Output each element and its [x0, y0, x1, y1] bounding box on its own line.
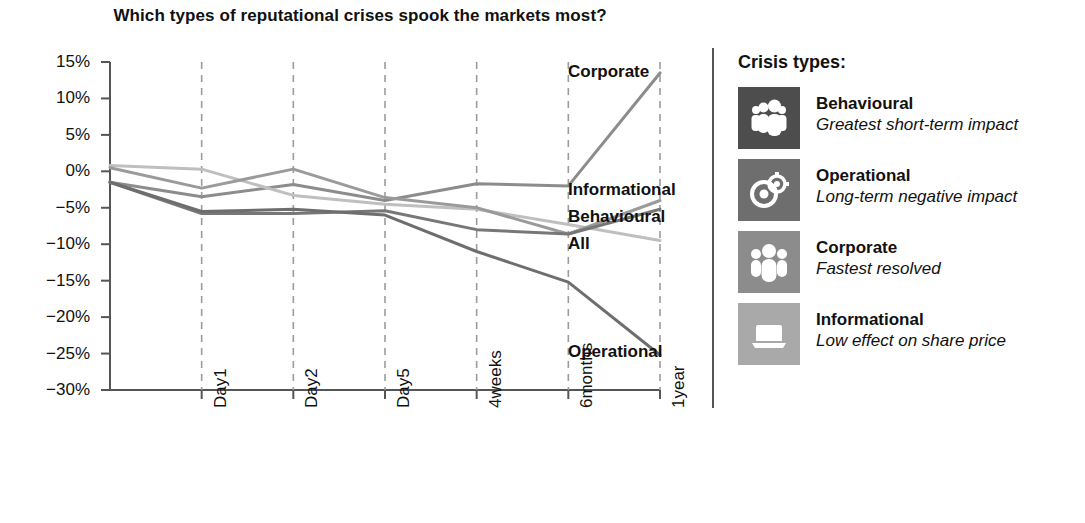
- x-axis-tick-label: Day1: [211, 368, 231, 408]
- series-inline-label: Corporate: [568, 62, 649, 82]
- legend-item-corporate[interactable]: CorporateFastest resolved: [738, 231, 1082, 293]
- x-axis-tick-label: Day2: [302, 368, 322, 408]
- y-axis-tick-label: −20%: [12, 308, 90, 325]
- legend-item-description: Low effect on share price: [816, 330, 1006, 352]
- y-axis-tick-label: 15%: [12, 53, 90, 70]
- laptop-icon: [738, 303, 800, 365]
- legend-heading: Crisis types:: [738, 52, 1082, 73]
- y-axis-tick-label: −25%: [12, 345, 90, 362]
- series-inline-label: Operational: [568, 342, 662, 362]
- y-axis-tick-label: −15%: [12, 272, 90, 289]
- y-axis-tick-label: −10%: [12, 235, 90, 252]
- series-inline-label: All: [568, 234, 590, 254]
- y-axis-tick-label: 5%: [12, 126, 90, 143]
- page-title: Which types of reputational crises spook…: [0, 6, 720, 26]
- legend-item-behavioural[interactable]: BehaviouralGreatest short-term impact: [738, 87, 1082, 149]
- y-axis-tick-label: 10%: [12, 89, 90, 106]
- three-people-icon: [738, 231, 800, 293]
- legend-item-description: Fastest resolved: [816, 258, 941, 280]
- series-inline-label: Behavioural: [568, 207, 665, 227]
- gears-circles-icon: [738, 159, 800, 221]
- legend-panel: Crisis types: BehaviouralGreatest short-…: [712, 48, 1082, 408]
- x-axis-tick-label: 4weeks: [486, 350, 506, 408]
- y-axis-ticks: [101, 62, 110, 390]
- legend-item-description: Long-term negative impact: [816, 186, 1017, 208]
- y-axis-tick-label: −5%: [12, 199, 90, 216]
- legend-item-name: Informational: [816, 309, 1006, 330]
- line-chart: 15%10%5%0%−5%−10%−15%−20%−25%−30% Day1Da…: [0, 40, 710, 510]
- plot-svg: [0, 40, 710, 510]
- group-of-people-icon: [738, 87, 800, 149]
- series-inline-label: Informational: [568, 180, 676, 200]
- y-axis-tick-label: −30%: [12, 381, 90, 398]
- legend-item-name: Operational: [816, 165, 1017, 186]
- x-axis-tick-label: 1year: [669, 365, 689, 408]
- y-axis-tick-label: 0%: [12, 162, 90, 179]
- legend-item-name: Corporate: [816, 237, 941, 258]
- x-axis-tick-label: Day5: [394, 368, 414, 408]
- legend-item-description: Greatest short-term impact: [816, 114, 1018, 136]
- legend-item-informational[interactable]: InformationalLow effect on share price: [738, 303, 1082, 365]
- legend-item-name: Behavioural: [816, 93, 1018, 114]
- legend-item-operational[interactable]: OperationalLong-term negative impact: [738, 159, 1082, 221]
